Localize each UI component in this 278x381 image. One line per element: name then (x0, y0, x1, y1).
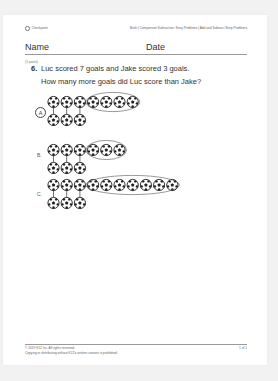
soccer-ball-icon (88, 179, 99, 190)
soccer-ball-icon (101, 179, 112, 190)
soccer-ball-icon (114, 96, 125, 107)
soccer-ball-icon (48, 179, 59, 190)
soccer-ball-icon (61, 96, 72, 107)
soccer-ball-icon (48, 162, 59, 173)
option-letter: A (39, 110, 43, 116)
question-prompt: How many more goals did Luc score than J… (41, 77, 201, 86)
soccer-ball-icon (74, 114, 85, 125)
soccer-ball-icon (88, 96, 99, 107)
soccer-ball-icon (61, 179, 72, 190)
checkpoint-header: Checkpoint (25, 26, 48, 31)
soccer-ball-icon (114, 144, 125, 155)
soccer-ball-icon (74, 197, 85, 208)
soccer-ball-icon (114, 179, 125, 190)
checkpoint-circle-icon (25, 26, 30, 31)
soccer-ball-icon (74, 162, 85, 173)
soccer-ball-icon (48, 114, 59, 125)
soccer-ball-icon (74, 144, 85, 155)
soccer-ball-icon (61, 162, 72, 173)
soccer-ball-icon (48, 144, 59, 155)
footer-notice: Copying or distributing without K12's wr… (25, 351, 118, 355)
breadcrumb: Math | Comparison Subtraction: Story Pro… (130, 26, 247, 30)
option-label-b[interactable]: B. (37, 152, 42, 158)
checkpoint-label: Checkpoint (32, 26, 48, 30)
soccer-ball-icon (74, 96, 85, 107)
footer-copyright: © 2019 K12 Inc. All rights reserved. (25, 346, 75, 350)
soccer-ball-icon (127, 96, 138, 107)
date-label: Date (146, 42, 165, 52)
soccer-ball-icon (48, 96, 59, 107)
soccer-ball-icon (61, 144, 72, 155)
option-label-a[interactable]: A (35, 107, 46, 118)
question-text: Luc scored 7 goals and Jake scored 3 goa… (41, 64, 189, 73)
soccer-ball-icon (154, 179, 165, 190)
soccer-ball-icon (61, 197, 72, 208)
soccer-ball-diagram-b (47, 143, 167, 177)
name-date-line: Name Date (25, 42, 247, 55)
soccer-ball-icon (101, 144, 112, 155)
soccer-ball-icon (140, 179, 151, 190)
soccer-ball-icon (167, 179, 178, 190)
option-label-c[interactable]: C. (37, 191, 42, 197)
soccer-ball-icon (61, 114, 72, 125)
soccer-ball-diagram-c (47, 178, 207, 212)
worksheet-page: Checkpoint Math | Comparison Subtraction… (3, 15, 267, 365)
name-label: Name (25, 42, 49, 52)
soccer-ball-icon (88, 144, 99, 155)
soccer-ball-icon (101, 96, 112, 107)
soccer-ball-icon (127, 179, 138, 190)
footer-divider (25, 344, 247, 345)
soccer-ball-icon (74, 179, 85, 190)
page-number: 1 of 1 (239, 346, 247, 350)
soccer-ball-diagram-a (47, 95, 167, 129)
question-number: 6. (31, 64, 37, 73)
soccer-ball-icon (48, 197, 59, 208)
